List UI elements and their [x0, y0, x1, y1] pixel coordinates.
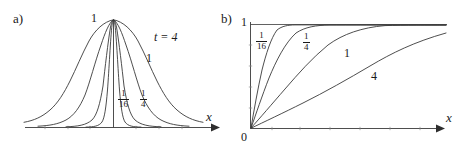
panel-a-curve-label-t1: 1	[146, 52, 152, 64]
panel-b-tag: b)	[221, 12, 232, 25]
fraction-numerator: 1	[118, 89, 129, 98]
panel-a-curve-label-t00625: 1 16	[118, 89, 129, 110]
fraction-denominator: 16	[118, 100, 129, 109]
panel-a-peak-label: 1	[91, 12, 97, 24]
fraction-numerator: 1	[256, 31, 267, 40]
panel-a-tag: a)	[13, 12, 23, 25]
fraction-one-sixteenth: 1 16	[256, 31, 267, 52]
fraction-denominator: 4	[140, 100, 147, 109]
panel-b-x-axis-label: x	[446, 111, 452, 124]
panel-b-origin-label: 0	[241, 131, 247, 143]
panel-a-x-axis-label: x	[206, 110, 212, 123]
fraction-one-sixteenth: 1 16	[118, 89, 129, 110]
panel-b-curve-label-t00625: 1 16	[256, 31, 267, 52]
fraction-numerator: 1	[303, 32, 310, 41]
fraction-one-quarter: 1 4	[140, 89, 147, 110]
panel-b-curve-t00625	[251, 25, 446, 128]
panel-b-curve-label-t1: 1	[344, 47, 350, 59]
fraction-one-quarter: 1 4	[303, 32, 310, 53]
fraction-denominator: 4	[303, 43, 310, 52]
figure-container: a) 1 t = 4 1 1 16 1 4 x b) 1 1 16	[0, 0, 471, 151]
panel-a-group	[24, 20, 220, 132]
panel-b-curve-label-t4: 4	[371, 70, 377, 82]
figure-plot-svg	[0, 0, 471, 151]
panel-a-curve-label-t4-text: t = 4	[154, 30, 177, 44]
panel-b-curve-t1	[251, 25, 446, 128]
fraction-numerator: 1	[140, 89, 147, 98]
panel-a-curve-label-t4: t = 4	[154, 31, 177, 43]
panel-b-x-axis-arrow	[436, 125, 445, 133]
panel-b-curve-label-t025: 1 4	[303, 32, 310, 53]
panel-a-x-axis-arrow	[211, 124, 220, 132]
panel-a-curve-label-t025: 1 4	[140, 89, 147, 110]
panel-b-curve-t025	[251, 25, 446, 128]
panel-b-group	[249, 22, 447, 132]
panel-b-y-top-label: 1	[241, 16, 247, 28]
fraction-denominator: 16	[256, 42, 267, 51]
